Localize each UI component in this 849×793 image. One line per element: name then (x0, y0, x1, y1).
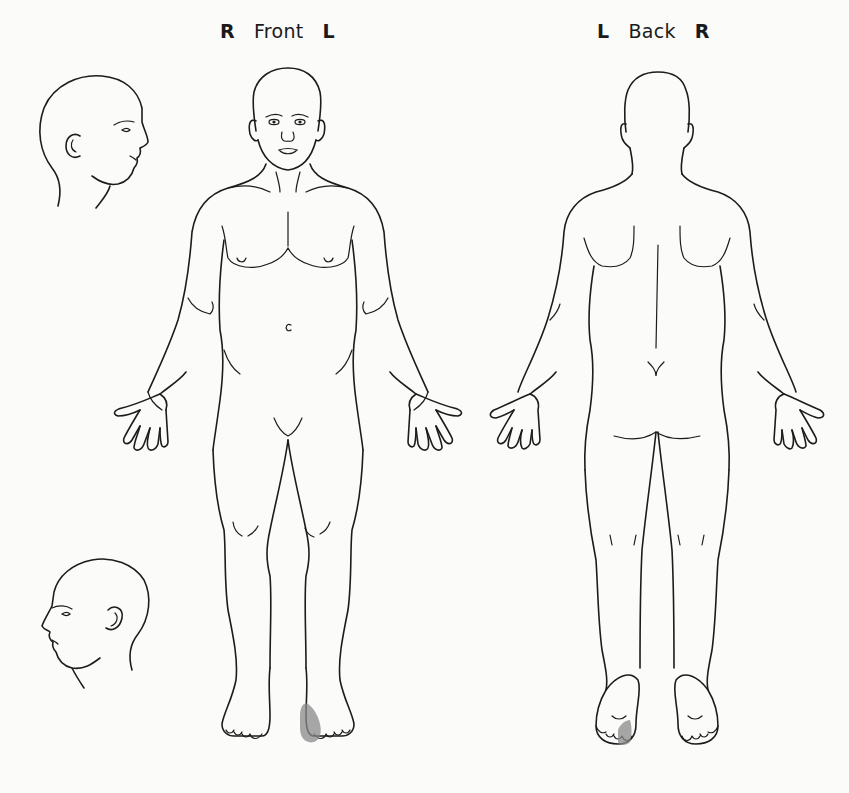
back-body-figure[interactable] (490, 72, 823, 744)
head-left-profile[interactable] (42, 559, 149, 688)
front-marked-region-left-great-toe[interactable] (300, 704, 321, 743)
back-marked-region-left-forefoot-sole[interactable] (618, 720, 632, 745)
front-body-figure[interactable] (115, 68, 462, 739)
body-diagram-canvas (0, 0, 849, 793)
head-right-profile[interactable] (40, 76, 148, 208)
